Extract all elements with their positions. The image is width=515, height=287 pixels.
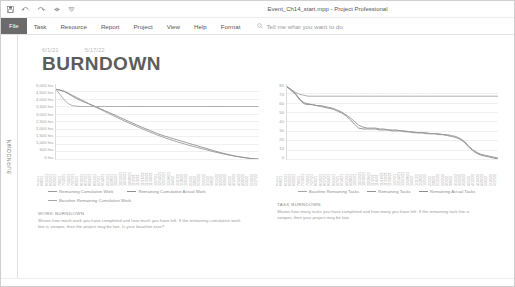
legend-swatch	[127, 191, 136, 192]
task-burndown-legend: Baseline Remaining TasksRemaining TasksR…	[275, 189, 498, 194]
series-line	[287, 87, 498, 158]
task-burndown-plot-area: 80 70 60 50 40 30 20 10 0	[275, 84, 498, 160]
legend-label: Remaining Cumulative Work	[59, 189, 113, 194]
report-title: BURNDOWN	[42, 54, 504, 74]
x-tick-label: 5/17/22	[255, 160, 259, 186]
legend-label: Remaining Cumulative Actual Work	[138, 189, 205, 194]
y-tick: 1,000 hrs	[36, 141, 53, 145]
charts-row: 5,000 hrs 4,500 hrs 4,000 hrs 3,500 hrs …	[28, 84, 504, 231]
legend-swatch	[48, 200, 57, 201]
y-tick: 2,000 hrs	[36, 127, 53, 131]
y-tick: 70	[279, 93, 284, 97]
task-burndown-caption-title: TASK BURNDOWN	[277, 202, 498, 207]
work-burndown-caption-body: Shows how much work you have completed a…	[38, 218, 243, 231]
series-line	[56, 89, 259, 106]
task-burndown-caption-body: Shows how many tasks you have completed …	[277, 209, 482, 222]
tab-report[interactable]: Report	[94, 18, 127, 34]
y-tick: 5,000 hrs	[36, 84, 53, 88]
work-burndown-plot	[55, 84, 259, 160]
tell-me-placeholder: Tell me what you want to do	[266, 23, 342, 30]
tell-me-search[interactable]: Tell me what you want to do	[257, 18, 342, 34]
work-burndown-y-axis: 5,000 hrs 4,500 hrs 4,000 hrs 3,500 hrs …	[36, 84, 55, 160]
customize-quick-access-icon[interactable]	[68, 6, 75, 12]
redo-icon[interactable]	[37, 6, 46, 13]
legend-label: Baseline Remaining Tasks	[309, 189, 359, 194]
window-title-text: Event_Ch14_start.mpp - Project Professio…	[267, 6, 387, 12]
legend-label: Remaining Tasks	[378, 189, 411, 194]
tab-project[interactable]: Project	[126, 18, 159, 34]
legend-item: Baseline Remaining Tasks	[298, 189, 359, 194]
quick-access-toolbar[interactable]	[7, 6, 75, 13]
legend-label: Baseline Remaining Cumulative Work	[59, 198, 131, 203]
workspace: BURNDOWN 6/1/21 5/17/22 BURNDOWN 5,000 h…	[1, 35, 514, 278]
project-app-window: Event_Ch14_start.mpp - Project Professio…	[0, 0, 515, 287]
legend-item: Remaining Tasks	[367, 189, 411, 194]
task-burndown-y-axis: 80 70 60 50 40 30 20 10 0	[275, 84, 286, 160]
x-tick-label: 5/17/22	[494, 160, 498, 186]
tab-help[interactable]: Help	[187, 18, 214, 34]
magnifier-icon	[257, 23, 263, 30]
legend-swatch	[419, 191, 428, 192]
link-icon[interactable]	[53, 6, 61, 13]
work-burndown-x-axis: 6/1/216/8/216/15/216/22/216/29/217/6/217…	[37, 160, 259, 186]
report-canvas: 6/1/21 5/17/22 BURNDOWN 5,000 hrs 4,500 …	[18, 35, 514, 278]
y-tick: 80	[279, 84, 284, 88]
series-layer	[56, 84, 259, 159]
y-tick: 3,000 hrs	[36, 113, 53, 117]
y-tick: 60	[279, 102, 284, 106]
legend-item: Remaining Cumulative Actual Work	[127, 189, 205, 194]
y-tick: 500 hrs	[40, 148, 54, 152]
legend-item: Remaining Cumulative Work	[48, 189, 113, 194]
task-burndown-caption: TASK BURNDOWN Shows how many tasks you h…	[275, 202, 498, 222]
legend-item: Baseline Remaining Cumulative Work	[48, 198, 131, 203]
y-tick: 20	[279, 138, 284, 142]
series-line	[56, 89, 259, 159]
y-tick: 3,500 hrs	[36, 105, 53, 109]
tab-file[interactable]: File	[1, 18, 27, 34]
work-burndown-legend: Remaining Cumulative WorkRemaining Cumul…	[36, 189, 259, 203]
undo-icon[interactable]	[21, 6, 30, 13]
window-title: Event_Ch14_start.mpp - Project Professio…	[1, 6, 514, 12]
y-tick: 40	[279, 120, 284, 124]
tab-task[interactable]: Task	[27, 18, 54, 34]
legend-label: Remaining Actual Tasks	[430, 189, 476, 194]
y-tick: 2,500 hrs	[36, 120, 53, 124]
title-bar: Event_Ch14_start.mpp - Project Professio…	[1, 1, 514, 18]
series-line	[287, 87, 498, 159]
legend-swatch	[367, 191, 376, 192]
y-tick: 10	[279, 147, 284, 151]
status-bar	[1, 278, 514, 286]
save-icon[interactable]	[7, 6, 14, 13]
series-line	[287, 87, 498, 96]
tab-view[interactable]: View	[160, 18, 187, 34]
ribbon-tab-bar[interactable]: File Task Resource Report Project View H…	[1, 18, 514, 35]
y-tick: 30	[279, 129, 284, 133]
series-layer	[287, 84, 498, 159]
task-burndown-plot	[286, 84, 498, 160]
legend-item: Remaining Actual Tasks	[419, 189, 476, 194]
series-line	[56, 89, 259, 159]
work-burndown-chart: 5,000 hrs 4,500 hrs 4,000 hrs 3,500 hrs …	[36, 84, 259, 231]
task-burndown-chart: 80 70 60 50 40 30 20 10 0 6/1/216/8/216/…	[275, 84, 498, 231]
tab-format[interactable]: Format	[214, 18, 248, 34]
tab-resource[interactable]: Resource	[53, 18, 93, 34]
report-side-tab[interactable]: BURNDOWN	[1, 35, 18, 278]
report-side-tab-label: BURNDOWN	[6, 139, 12, 174]
work-burndown-caption-title: WORK BURNDOWN	[38, 211, 259, 216]
legend-swatch	[298, 191, 307, 192]
y-tick: 1,500 hrs	[36, 134, 53, 138]
y-tick: 4,000 hrs	[36, 98, 53, 102]
y-tick: 4,500 hrs	[36, 91, 53, 95]
task-burndown-x-axis: 6/1/216/8/216/15/216/22/216/29/217/6/217…	[276, 160, 498, 186]
legend-swatch	[48, 191, 57, 192]
work-burndown-plot-area: 5,000 hrs 4,500 hrs 4,000 hrs 3,500 hrs …	[36, 84, 259, 160]
work-burndown-caption: WORK BURNDOWN Shows how much work you ha…	[36, 211, 259, 231]
y-tick: 50	[279, 111, 284, 115]
